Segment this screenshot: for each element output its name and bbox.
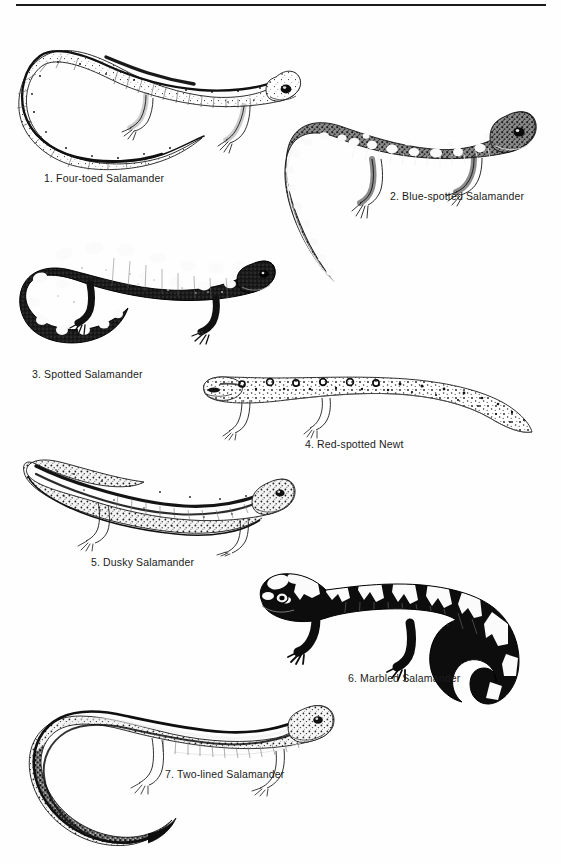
figure-dusky-salamander	[14, 452, 304, 556]
figure-four-toed-salamander	[14, 22, 314, 172]
caption-figure-3: 3. Spotted Salamander	[32, 368, 143, 380]
caption-figure-1: 1. Four-toed Salamander	[44, 172, 164, 184]
caption-figure-7: 7. Two-lined Salamander	[165, 768, 284, 780]
four-toed-salamander-illustration	[14, 22, 314, 172]
spotted-salamander-illustration	[18, 228, 278, 356]
caption-figure-5: 5. Dusky Salamander	[91, 556, 194, 568]
plate-page: 1. Four-toed Salamander	[0, 0, 561, 864]
caption-figure-4: 4. Red-spotted Newt	[305, 438, 404, 450]
top-rule-divider	[16, 4, 546, 6]
dusky-salamander-illustration	[14, 452, 304, 556]
figure-marbled-salamander	[242, 558, 542, 708]
red-spotted-newt-illustration	[190, 356, 550, 442]
caption-figure-6: 6. Marbled Salamander	[348, 672, 460, 684]
figure-spotted-salamander	[18, 228, 278, 356]
caption-figure-2: 2. Blue-spotted Salamander	[390, 190, 524, 202]
figure-red-spotted-newt	[190, 356, 550, 442]
marbled-salamander-illustration	[242, 558, 542, 708]
